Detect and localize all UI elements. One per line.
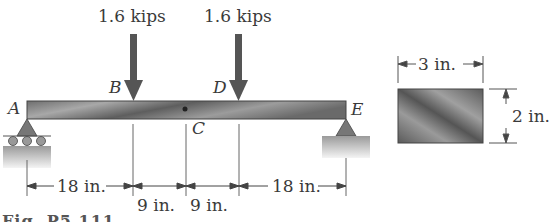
- load-arrow-b: [124, 34, 143, 101]
- cross-section: [398, 89, 483, 143]
- point-label-a: A: [8, 98, 20, 118]
- section-width-label: 3 in.: [418, 54, 456, 74]
- pin-support-e: [322, 119, 370, 158]
- point-label-d: D: [213, 77, 227, 97]
- point-c-dot: [183, 107, 188, 112]
- point-label-b: B: [109, 77, 122, 97]
- point-label-c: C: [192, 118, 205, 138]
- load-label-b: 1.6 kips: [98, 6, 166, 26]
- load-arrow-d: [229, 34, 248, 101]
- point-label-e: E: [351, 99, 363, 119]
- dim-label-ab: 18 in.: [57, 176, 106, 196]
- figure-caption: Fig. P5.111: [2, 212, 115, 222]
- dim-label-cd: 9 in.: [190, 195, 228, 215]
- dim-label-de: 18 in.: [272, 176, 321, 196]
- section-height-label: 2 in.: [512, 106, 550, 126]
- load-label-d: 1.6 kips: [204, 6, 272, 26]
- dim-label-bc: 9 in.: [137, 195, 175, 215]
